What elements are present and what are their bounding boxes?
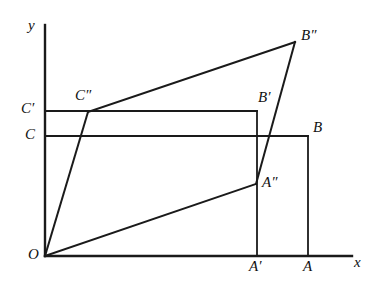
point-label-C: C: [25, 127, 35, 142]
point-label-B: B: [313, 120, 322, 135]
point-label-y: y: [28, 18, 35, 33]
point-label-Ap: A′: [249, 259, 261, 274]
point-label-O: O: [28, 247, 39, 262]
point-label-Bpp: B″: [301, 28, 316, 43]
point-label-App: A″: [262, 175, 277, 190]
point-label-A: A: [303, 259, 312, 274]
point-label-Bp: B′: [258, 90, 270, 105]
point-label-x: x: [354, 255, 361, 270]
geometry-figure: OAA′A″BB′B″CC′C″xy: [0, 0, 381, 289]
point-label-Cpp: C″: [75, 88, 91, 103]
point-label-Cp: C′: [21, 101, 34, 116]
diagram-canvas: [0, 0, 381, 289]
segment-O-Cpp: [45, 112, 88, 256]
segment-O-App: [45, 184, 256, 256]
segment-Bpp-App: [256, 42, 295, 184]
